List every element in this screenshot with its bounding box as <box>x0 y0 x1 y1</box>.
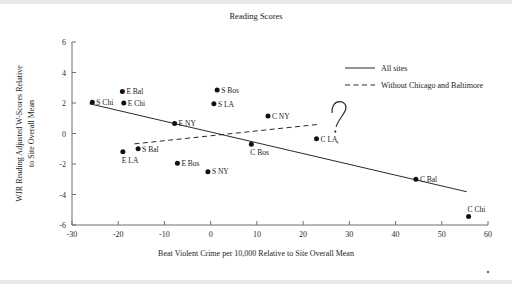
point-marker-s-la <box>211 101 216 106</box>
data-point-s-bal: S Bal <box>136 145 159 154</box>
point-label-s-chi: S Chi <box>96 98 113 107</box>
legend: All sites Without Chicago and Baltimore <box>345 64 484 90</box>
data-point-c-ny: C NY <box>265 112 290 121</box>
data-point-c-bos: C Bos <box>249 142 269 158</box>
question-mark-dot <box>335 131 336 132</box>
data-point-e-chi: E Chi <box>121 99 145 108</box>
x-axis-title: Beat Violent Crime per 10,000 Relative t… <box>158 249 354 258</box>
point-marker-c-chi <box>466 214 471 219</box>
point-label-s-la: S LA <box>218 100 235 109</box>
x-axis: -30-20-100102030405060 Beat Violent Crim… <box>67 221 492 258</box>
x-tick-label: 30 <box>345 230 353 239</box>
y-axis-title-line1: WJR Reading Adjusted W-Scores Relative <box>15 65 24 202</box>
data-point-e-bos: E Bos <box>175 159 200 168</box>
y-tick-label: -6 <box>59 221 66 230</box>
data-points: S ChiE BalE ChiE LAS BalE NYE BosS NYS B… <box>90 86 485 219</box>
point-label-c-ny: C NY <box>272 112 290 121</box>
y-axis: -6-4-20246 WJR Reading Adjusted W-Scores… <box>15 38 76 230</box>
point-marker-e-chi <box>121 101 126 106</box>
scan-speck-corner <box>487 271 489 273</box>
point-label-c-la: C LA <box>321 135 338 144</box>
x-tick-label: 10 <box>253 230 261 239</box>
point-marker-e-bos <box>175 161 180 166</box>
question-mark-stroke <box>332 102 346 127</box>
scatter-plot: Reading Scores -6-4-20246 WJR Reading Ad… <box>0 0 512 284</box>
point-marker-s-ny <box>205 169 210 174</box>
handwritten-question-mark-annotation <box>332 102 346 133</box>
data-point-c-chi: C Chi <box>466 205 485 220</box>
chart-title: Reading Scores <box>229 11 282 21</box>
point-label-e-bal: E Bal <box>126 87 143 96</box>
y-tick-label: 4 <box>62 69 66 78</box>
point-marker-c-bal <box>413 177 418 182</box>
data-point-s-bos: S Bos <box>215 86 239 95</box>
y-tick-label: -4 <box>59 191 66 200</box>
x-tick-label: 50 <box>438 230 446 239</box>
point-label-c-bal: C Bal <box>420 175 437 184</box>
legend-label-without-chicago-baltimore: Without Chicago and Baltimore <box>381 81 484 90</box>
point-label-c-bos: C Bos <box>250 148 269 157</box>
point-marker-e-la <box>120 149 125 154</box>
point-marker-e-ny <box>172 121 177 126</box>
point-marker-c-ny <box>265 113 270 118</box>
point-marker-s-bos <box>215 88 220 93</box>
x-axis-ticks: -30-20-100102030405060 <box>67 221 492 239</box>
x-tick-label: 40 <box>392 230 400 239</box>
y-axis-ticks: -6-4-20246 <box>59 38 76 230</box>
data-point-s-ny: S NY <box>205 167 229 176</box>
x-tick-label: 0 <box>209 230 213 239</box>
legend-label-all-sites: All sites <box>381 64 407 73</box>
x-tick-label: -10 <box>159 230 170 239</box>
trend-line-without-chicago-and-baltimore <box>134 124 318 144</box>
data-point-s-la: S LA <box>211 100 234 109</box>
point-marker-c-bos <box>249 142 254 147</box>
point-label-c-chi: C Chi <box>468 205 486 214</box>
data-point-e-la: E LA <box>120 149 139 165</box>
point-label-e-bos: E Bos <box>181 159 199 168</box>
point-label-e-chi: E Chi <box>128 99 145 108</box>
figure-container: Reading Scores -6-4-20246 WJR Reading Ad… <box>0 0 512 284</box>
point-label-e-ny: E NY <box>179 119 197 128</box>
point-marker-e-bal <box>120 89 125 94</box>
point-label-s-ny: S NY <box>212 167 229 176</box>
x-tick-label: 20 <box>299 230 307 239</box>
data-point-e-ny: E NY <box>172 119 196 128</box>
point-label-s-bos: S Bos <box>221 86 239 95</box>
x-tick-label: -30 <box>67 230 78 239</box>
y-tick-label: 2 <box>62 99 66 108</box>
point-marker-c-la <box>314 136 319 141</box>
data-point-e-bal: E Bal <box>120 87 143 96</box>
y-tick-label: 0 <box>62 130 66 139</box>
scan-speck <box>337 142 339 144</box>
y-axis-title-line2: to Site Overall Mean <box>27 100 36 167</box>
point-marker-s-bal <box>136 146 141 151</box>
x-tick-label: -20 <box>113 230 124 239</box>
point-marker-s-chi <box>90 100 95 105</box>
point-label-e-la: E LA <box>122 156 139 165</box>
data-point-c-bal: C Bal <box>413 175 437 184</box>
data-point-s-chi: S Chi <box>90 98 113 107</box>
y-tick-label: -2 <box>59 160 66 169</box>
y-tick-label: 6 <box>62 38 66 47</box>
point-label-s-bal: S Bal <box>142 145 158 154</box>
data-point-c-la: C LA <box>314 135 338 144</box>
x-tick-label: 60 <box>484 230 492 239</box>
